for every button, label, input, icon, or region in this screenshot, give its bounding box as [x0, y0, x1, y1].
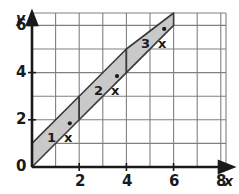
x-tick-label-6: 6: [169, 174, 179, 189]
dot-marker-2: [115, 74, 119, 78]
y-tick-label-4: 4: [16, 65, 26, 80]
y-tick-label-6: 6: [16, 18, 26, 33]
dot-marker-3: [162, 27, 166, 31]
y-tick-label-2: 2: [16, 112, 26, 127]
grid-lines: [32, 13, 226, 167]
parallelogram-1-x-label: x: [64, 131, 72, 144]
parallelogram-2-number: 2: [94, 84, 103, 97]
parallelogram-2-x-label: x: [111, 84, 119, 97]
parallelogram-3-x-label: x: [158, 37, 166, 50]
x-tick-label-8: 8: [216, 174, 226, 189]
y-axis-arrowhead: [27, 12, 37, 25]
axis-lines: [27, 12, 233, 173]
parallelogram-1-number: 1: [47, 131, 56, 144]
x-tick-label-2: 2: [75, 174, 85, 189]
tick-marks: [28, 25, 221, 171]
dot-marker-1: [68, 121, 72, 125]
figure-coordinate-grid: y x 6 4 2 0 2 4 6 8 1 x 2 x 3 x: [0, 0, 239, 194]
x-tick-label-4: 4: [122, 174, 132, 189]
plot-area: [0, 0, 239, 194]
parallelogram-3-number: 3: [141, 37, 150, 50]
origin-label: 0: [16, 159, 26, 174]
